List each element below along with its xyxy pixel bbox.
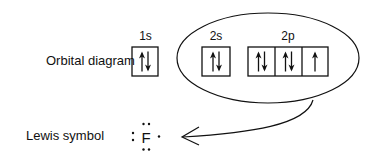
diagram-graphics: F bbox=[0, 0, 379, 158]
lewis-element: F bbox=[141, 129, 150, 146]
lewis-symbol-f: F bbox=[132, 123, 160, 151]
fluorine-electron-diagram: Orbital diagram Lewis symbol 1s 2s 2p bbox=[0, 0, 379, 158]
orbital-boxes-2p bbox=[248, 47, 328, 76]
orbital-box-2s bbox=[202, 47, 230, 76]
orbital-box-1s bbox=[132, 47, 158, 76]
connector-arrow bbox=[183, 100, 313, 137]
valence-ellipse bbox=[177, 13, 359, 103]
